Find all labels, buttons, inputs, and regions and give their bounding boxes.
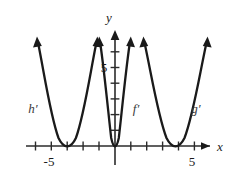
y-tick-label-5: 5 <box>101 60 108 75</box>
coordinate-plane: y x -5 5 5 h′ f′ g′ <box>0 0 234 180</box>
curve-g-prime-right-arrowhead <box>203 37 212 48</box>
x-tick-label-neg5: -5 <box>44 154 55 169</box>
curve-label-f-prime: f′ <box>133 101 140 116</box>
graph-figure: y x -5 5 5 h′ f′ g′ <box>0 0 234 180</box>
curve-h-prime-path <box>39 45 96 146</box>
curve-g-prime <box>139 37 211 147</box>
curve-label-h-prime: h′ <box>28 101 38 116</box>
curve-g-prime-path <box>145 45 206 146</box>
curve-label-g-prime: g′ <box>191 101 201 116</box>
y-axis-label: y <box>104 10 112 25</box>
y-axis-arrowhead <box>111 30 120 40</box>
curve-h-prime-left-arrowhead <box>33 37 42 48</box>
curve-f-prime-right-arrowhead <box>126 37 135 48</box>
x-axis-arrowhead <box>201 142 210 150</box>
y-axis-group <box>111 30 120 165</box>
curve-g-prime-left-arrowhead <box>139 37 148 48</box>
x-axis-label: x <box>216 139 223 154</box>
x-tick-label-pos5: 5 <box>189 154 196 169</box>
curve-h-prime <box>33 37 101 147</box>
